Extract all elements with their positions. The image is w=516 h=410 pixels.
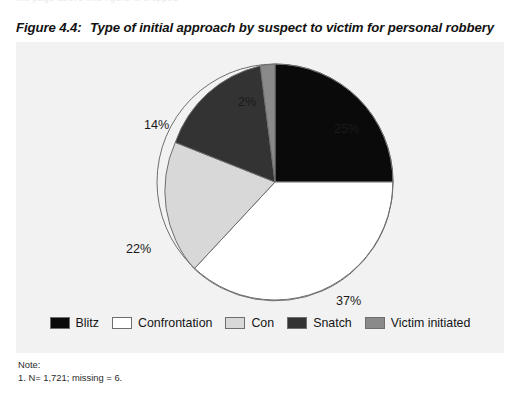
legend-swatch-victim-initiated xyxy=(365,317,385,329)
legend-label-victim-initiated: Victim initiated xyxy=(391,316,471,330)
pie-svg xyxy=(155,62,395,302)
legend-item-blitz[interactable]: Blitz xyxy=(50,316,99,330)
legend-item-snatch[interactable]: Snatch xyxy=(287,316,352,330)
pie-chart: 25% 37% 22% 14% 2% xyxy=(16,42,504,307)
pie-value-label-blitz: 25% xyxy=(334,122,359,136)
figure-title-text: Type of initial approach by suspect to v… xyxy=(90,20,494,35)
pie-graphic xyxy=(155,62,395,302)
chart-legend: Blitz Confrontation Con Snatch Victim in… xyxy=(16,310,504,336)
chart-panel: 25% 37% 22% 14% 2% Blitz Confrontation C… xyxy=(16,42,504,353)
figure-container: Figure 4.4:Type of initial approach by s… xyxy=(0,0,516,410)
figure-title: Figure 4.4:Type of initial approach by s… xyxy=(16,20,504,35)
legend-label-confrontation: Confrontation xyxy=(138,316,212,330)
pie-value-label-con: 22% xyxy=(126,242,151,256)
legend-swatch-blitz xyxy=(50,317,70,329)
legend-swatch-confrontation xyxy=(112,317,132,329)
legend-swatch-con xyxy=(225,317,245,329)
legend-label-snatch: Snatch xyxy=(313,316,352,330)
legend-item-confrontation[interactable]: Confrontation xyxy=(112,316,212,330)
figure-note: Note: 1. N= 1,721; missing = 6. xyxy=(18,358,318,384)
note-heading: Note: xyxy=(18,358,318,371)
legend-item-con[interactable]: Con xyxy=(225,316,274,330)
pie-value-label-snatch: 14% xyxy=(144,118,169,132)
legend-label-blitz: Blitz xyxy=(76,316,99,330)
legend-swatch-snatch xyxy=(287,317,307,329)
figure-number: Figure 4.4: xyxy=(16,20,90,35)
pie-value-label-victim-initiated: 2% xyxy=(238,95,256,109)
legend-item-victim-initiated[interactable]: Victim initiated xyxy=(365,316,471,330)
note-line-1: 1. N= 1,721; missing = 6. xyxy=(18,371,318,384)
legend-label-con: Con xyxy=(251,316,274,330)
pie-value-label-confrontation: 37% xyxy=(336,294,361,308)
